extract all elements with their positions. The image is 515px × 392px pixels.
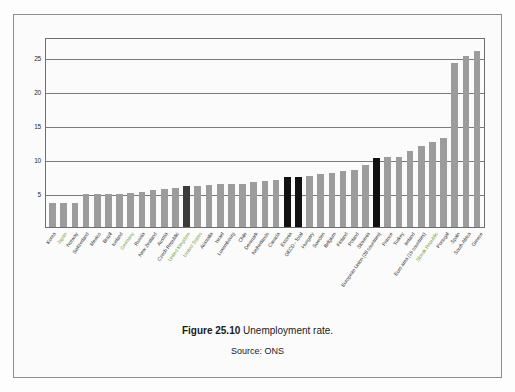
bar	[228, 184, 235, 227]
bar-slot	[282, 39, 293, 227]
bar-slot	[405, 39, 416, 227]
x-label-slot: Australia	[203, 229, 214, 321]
bar	[105, 194, 112, 227]
figure-border-box: 510152025 KoreaJapanNorwaySwitzerlandMex…	[13, 14, 502, 378]
bar	[295, 177, 302, 227]
caption-title: Unemployment rate.	[243, 325, 333, 336]
bar	[429, 142, 436, 228]
bar	[407, 151, 414, 227]
y-tick-label-10: 10	[34, 157, 45, 164]
figure-source: Source: ONS	[14, 346, 501, 356]
bar	[273, 180, 280, 227]
bar	[396, 157, 403, 227]
bar	[440, 138, 447, 227]
bar	[94, 194, 101, 227]
figure-page: 510152025 KoreaJapanNorwaySwitzerlandMex…	[0, 0, 515, 392]
figure-caption: Figure 25.10 Unemployment rate.	[14, 323, 501, 338]
bar	[306, 176, 313, 227]
bar-slot	[438, 39, 449, 227]
bar	[284, 177, 291, 227]
bar	[329, 173, 336, 227]
bar	[340, 171, 347, 227]
bar	[451, 63, 458, 227]
bar-slot	[293, 39, 304, 227]
bar	[262, 181, 269, 227]
bar	[373, 158, 380, 227]
bar	[217, 184, 224, 227]
bar-slot	[181, 39, 192, 227]
x-axis-label: Turkey	[392, 231, 405, 246]
bar-slot	[203, 39, 214, 227]
bar	[351, 170, 358, 227]
bar	[362, 165, 369, 227]
bar-slot	[81, 39, 92, 227]
bar-series	[46, 39, 484, 227]
bar-slot	[170, 39, 181, 227]
x-axis-label: France	[380, 231, 394, 247]
bar-slot	[393, 39, 404, 227]
bar-slot	[136, 39, 147, 227]
y-tick-label-25: 25	[34, 55, 45, 62]
bar	[127, 193, 134, 227]
bar-slot	[270, 39, 281, 227]
bar-slot	[47, 39, 58, 227]
bar	[317, 174, 324, 227]
bar	[116, 194, 123, 227]
bar	[418, 146, 425, 227]
x-label-slot: Mexico	[91, 229, 102, 321]
bar	[139, 192, 146, 227]
bar-slot	[69, 39, 80, 227]
bar	[172, 188, 179, 227]
bar	[49, 203, 56, 227]
bar-slot	[248, 39, 259, 227]
bar-slot	[114, 39, 125, 227]
bar-slot	[103, 39, 114, 227]
bar-slot	[427, 39, 438, 227]
x-axis-label: Korea	[44, 231, 56, 245]
bar-slot	[226, 39, 237, 227]
x-label-slot: Greece	[473, 229, 484, 321]
bar	[206, 185, 213, 227]
bar-slot	[472, 39, 483, 227]
bar	[474, 51, 481, 227]
bar-slot	[371, 39, 382, 227]
caption-figure-number: Figure 25.10	[182, 325, 240, 336]
bar	[194, 186, 201, 227]
bar-slot	[382, 39, 393, 227]
bar-slot	[192, 39, 203, 227]
bar	[83, 194, 90, 227]
caption-line: Figure 25.10 Unemployment rate.	[14, 323, 501, 338]
x-label-slot: Luxembourg	[226, 229, 237, 321]
bar-slot	[259, 39, 270, 227]
bar-slot	[215, 39, 226, 227]
bar-slot	[416, 39, 427, 227]
bar	[384, 157, 391, 227]
y-tick-label-15: 15	[34, 123, 45, 130]
bar-slot	[349, 39, 360, 227]
x-label-slot: Portugal	[439, 229, 450, 321]
bar-slot	[237, 39, 248, 227]
bar	[161, 189, 168, 227]
bar-slot	[326, 39, 337, 227]
bar-slot	[92, 39, 103, 227]
x-label-slot: Korea	[46, 229, 57, 321]
y-tick-label-20: 20	[34, 89, 45, 96]
bar	[60, 203, 67, 227]
bar-slot	[148, 39, 159, 227]
y-tick-label-5: 5	[38, 191, 45, 198]
bar	[463, 56, 470, 227]
bar	[239, 184, 246, 227]
bar-slot	[304, 39, 315, 227]
x-axis-category-labels: KoreaJapanNorwaySwitzerlandMexicoBrazilI…	[45, 229, 485, 321]
bar	[250, 182, 257, 227]
bar	[183, 186, 190, 227]
chart-area: 510152025	[45, 38, 485, 228]
bar-slot	[58, 39, 69, 227]
bar-slot	[315, 39, 326, 227]
bar-slot	[460, 39, 471, 227]
bar	[150, 190, 157, 227]
bar-slot	[449, 39, 460, 227]
bar-slot	[360, 39, 371, 227]
plot-area	[45, 38, 485, 228]
bar-slot	[125, 39, 136, 227]
